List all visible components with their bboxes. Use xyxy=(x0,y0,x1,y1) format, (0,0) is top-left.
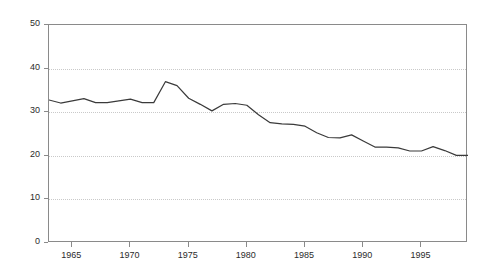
y-tick-mark-10 xyxy=(44,198,48,199)
y-tick-mark-20 xyxy=(44,155,48,156)
x-tick-label-1975: 1975 xyxy=(168,250,208,260)
x-tick-mark-1985 xyxy=(304,242,305,247)
x-tick-mark-1990 xyxy=(362,242,363,247)
y-tick-label-30: 30 xyxy=(14,106,40,115)
x-tick-mark-1965 xyxy=(71,242,72,247)
plot-area xyxy=(48,24,467,242)
line-chart: 01020304050 1965197019751980198519901995 xyxy=(0,0,480,279)
x-tick-label-1980: 1980 xyxy=(226,250,266,260)
y-tick-label-50: 50 xyxy=(14,19,40,28)
data-line-series-1 xyxy=(49,25,468,243)
x-tick-label-1985: 1985 xyxy=(284,250,324,260)
x-tick-mark-1970 xyxy=(129,242,130,247)
series-line-series-1 xyxy=(49,82,468,156)
y-tick-label-40: 40 xyxy=(14,63,40,72)
y-tick-mark-0 xyxy=(44,242,48,243)
y-tick-mark-40 xyxy=(44,68,48,69)
x-tick-label-1970: 1970 xyxy=(109,250,149,260)
x-tick-mark-1995 xyxy=(420,242,421,247)
x-tick-mark-1975 xyxy=(188,242,189,247)
x-tick-label-1995: 1995 xyxy=(400,250,440,260)
x-tick-label-1990: 1990 xyxy=(342,250,382,260)
x-tick-label-1965: 1965 xyxy=(51,250,91,260)
x-tick-mark-1980 xyxy=(246,242,247,247)
y-tick-mark-30 xyxy=(44,111,48,112)
y-tick-mark-50 xyxy=(44,24,48,25)
y-tick-label-0: 0 xyxy=(14,237,40,246)
y-tick-label-10: 10 xyxy=(14,193,40,202)
y-tick-label-20: 20 xyxy=(14,150,40,159)
